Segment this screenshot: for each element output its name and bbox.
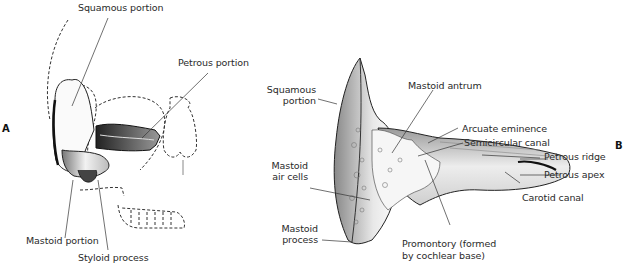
label-squamous-b-line1: Squamous <box>266 84 316 95</box>
label-petrous-ridge: Petrous ridge <box>544 151 606 162</box>
panel-label-b: B <box>615 140 623 151</box>
panel-label-a: A <box>2 123 10 134</box>
label-promontory-line2: by cochlear base) <box>402 250 485 261</box>
label-mastoid-portion-a: Mastoid portion <box>26 235 99 246</box>
label-petrous-portion-a: Petrous portion <box>178 57 249 68</box>
label-squamous-portion-a: Squamous portion <box>78 2 163 13</box>
label-carotid-canal: Carotid canal <box>522 192 584 203</box>
temporal-bone-figure: A B Squamous portion Petrous portion Mas… <box>0 0 623 270</box>
label-promontory-line1: Promontory (formed <box>402 238 496 249</box>
label-styloid-process-a: Styloid process <box>78 252 149 263</box>
label-mastoid-antrum: Mastoid antrum <box>408 80 482 91</box>
label-petrous-apex: Petrous apex <box>544 169 604 180</box>
label-semicircular-canal: Semicircular canal <box>464 137 550 148</box>
label-squamous-b-line2: portion <box>266 95 316 106</box>
label-mastoid-process-line1: Mastoid <box>262 223 318 234</box>
label-mastoid-process-line2: process <box>262 234 318 245</box>
label-mastoid-air-cells-line1: Mastoid <box>262 160 308 171</box>
label-mastoid-air-cells-line2: air cells <box>262 171 308 182</box>
label-arcuate-eminence: Arcuate eminence <box>462 123 547 134</box>
